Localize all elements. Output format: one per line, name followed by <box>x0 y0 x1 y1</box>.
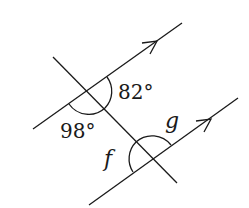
angle-arc-g <box>136 136 171 145</box>
angle-arc-98 <box>69 104 105 114</box>
diagram-canvas: 82° 98° g f <box>0 0 249 208</box>
label-82: 82° <box>118 80 153 104</box>
label-98: 98° <box>60 119 95 143</box>
angle-arc-82 <box>105 77 112 108</box>
lower-arrow-icon <box>196 119 211 132</box>
label-f: f <box>102 146 116 171</box>
label-g: g <box>165 108 179 133</box>
angle-arc-f <box>129 142 136 172</box>
